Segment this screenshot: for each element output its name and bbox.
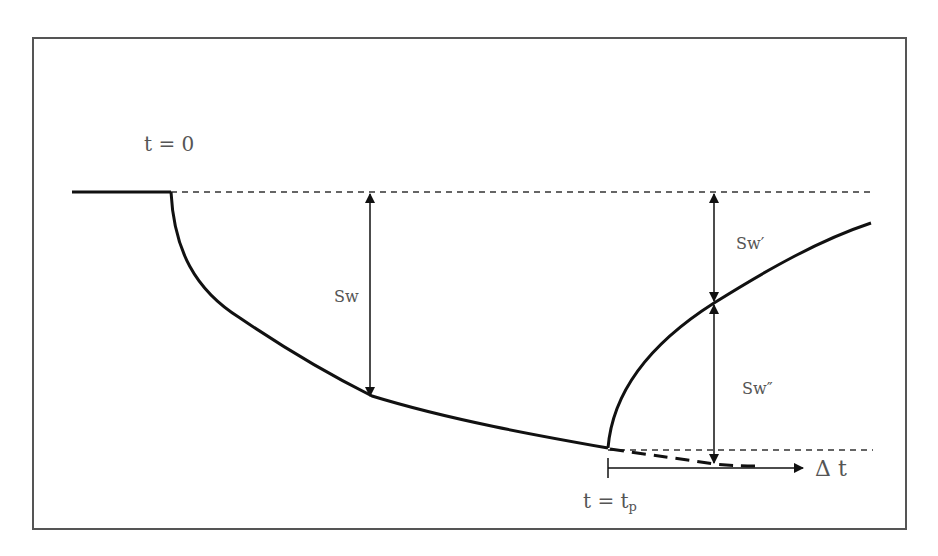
- t-zero-label: t = 0: [144, 134, 194, 154]
- sw-double-prime-label: Sw″: [742, 381, 773, 397]
- delta-t-label: Δ t: [815, 458, 847, 480]
- t-equals-tp-label: t = tp: [583, 491, 637, 513]
- extrapolated-drawdown-dashed-curve: [610, 449, 762, 466]
- sw-prime-label: Sw′: [736, 236, 764, 252]
- t-equals-text: t = t: [583, 489, 629, 513]
- tp-subscript: p: [629, 499, 637, 514]
- recovery-curve: [608, 223, 871, 448]
- diagram-canvas: [0, 0, 938, 556]
- sw-label: Sw: [334, 289, 359, 305]
- drawdown-curve: [171, 192, 608, 448]
